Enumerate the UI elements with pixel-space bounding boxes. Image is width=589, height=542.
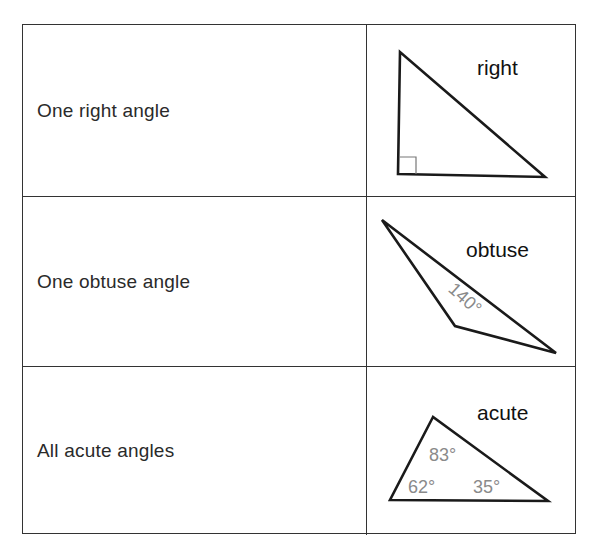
description-text: All acute angles bbox=[37, 440, 174, 462]
figure-cell bbox=[367, 197, 575, 366]
triangle-classification-table: One right angle One obtuse angle All acu… bbox=[22, 24, 576, 534]
table-row-right: One right angle bbox=[23, 25, 575, 196]
figure-cell bbox=[367, 25, 575, 196]
table-row-acute: All acute angles bbox=[23, 366, 575, 535]
description-cell: All acute angles bbox=[23, 367, 367, 535]
figure-cell bbox=[367, 367, 575, 535]
description-cell: One obtuse angle bbox=[23, 197, 367, 366]
description-text: One obtuse angle bbox=[37, 271, 190, 293]
description-cell: One right angle bbox=[23, 25, 367, 196]
description-text: One right angle bbox=[37, 100, 170, 122]
table-row-obtuse: One obtuse angle bbox=[23, 196, 575, 366]
